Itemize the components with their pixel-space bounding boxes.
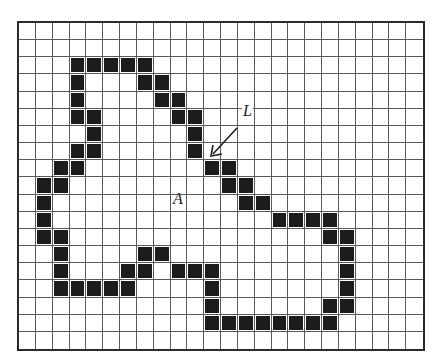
grid-cell — [406, 74, 423, 91]
grid-cell — [171, 246, 188, 263]
boundary-label: L — [242, 103, 253, 119]
grid-cell — [288, 57, 305, 74]
boundary-pixel — [137, 263, 154, 280]
grid-cell — [86, 40, 103, 57]
grid-cell — [36, 57, 53, 74]
boundary-pixel — [53, 263, 70, 280]
grid-cell — [356, 57, 373, 74]
grid-cell — [120, 74, 137, 91]
grid-cell — [19, 126, 36, 143]
grid-cell — [36, 160, 53, 177]
grid-cell — [171, 298, 188, 315]
grid-cell — [86, 246, 103, 263]
grid-cell — [356, 23, 373, 40]
grid-cell — [322, 57, 339, 74]
grid-cell — [305, 57, 322, 74]
grid-cell — [154, 298, 171, 315]
grid-cell — [154, 23, 171, 40]
grid-cell — [137, 160, 154, 177]
boundary-pixel — [171, 263, 188, 280]
grid-cell — [171, 23, 188, 40]
grid-cell — [53, 74, 70, 91]
boundary-pixel — [53, 229, 70, 246]
grid-cell — [322, 195, 339, 212]
grid-cell — [154, 143, 171, 160]
grid-cell — [120, 109, 137, 126]
grid-cell — [373, 74, 390, 91]
grid-cell — [154, 280, 171, 297]
grid-cell — [86, 92, 103, 109]
boundary-pixel — [204, 160, 221, 177]
grid-cell — [373, 57, 390, 74]
grid-cell — [103, 23, 120, 40]
grid-cell — [356, 126, 373, 143]
grid-cell — [70, 332, 87, 349]
grid-cell — [53, 92, 70, 109]
grid-cell — [204, 195, 221, 212]
grid-cell — [86, 263, 103, 280]
grid-cell — [19, 229, 36, 246]
grid-cell — [187, 92, 204, 109]
grid-cell — [356, 332, 373, 349]
grid-cell — [36, 23, 53, 40]
grid-cell — [373, 229, 390, 246]
grid-cell — [322, 246, 339, 263]
grid-cell — [322, 143, 339, 160]
grid-cell — [356, 143, 373, 160]
grid-cell — [305, 298, 322, 315]
grid-cell — [204, 212, 221, 229]
grid-cell — [238, 23, 255, 40]
grid-cell — [255, 212, 272, 229]
grid-cell — [86, 160, 103, 177]
boundary-pixel — [171, 92, 188, 109]
grid-cell — [406, 177, 423, 194]
grid-cell — [288, 177, 305, 194]
boundary-pixel — [288, 315, 305, 332]
boundary-pixel — [70, 92, 87, 109]
grid-cell — [204, 246, 221, 263]
grid-cell — [137, 92, 154, 109]
boundary-pixel — [36, 212, 53, 229]
boundary-pixel — [221, 160, 238, 177]
grid-cell — [187, 195, 204, 212]
grid-cell — [288, 263, 305, 280]
grid-cell — [373, 92, 390, 109]
grid-cell — [187, 298, 204, 315]
boundary-pixel — [187, 109, 204, 126]
grid-cell — [154, 126, 171, 143]
grid-cell — [238, 246, 255, 263]
grid-cell — [238, 298, 255, 315]
grid-cell — [389, 23, 406, 40]
boundary-pixel — [70, 143, 87, 160]
grid-cell — [389, 332, 406, 349]
grid-cell — [171, 229, 188, 246]
grid-cell — [339, 315, 356, 332]
grid-cell — [137, 143, 154, 160]
grid-cell — [389, 315, 406, 332]
grid-cell — [120, 229, 137, 246]
grid-cell — [305, 74, 322, 91]
grid-cell — [137, 280, 154, 297]
grid-cell — [19, 57, 36, 74]
grid-cell — [373, 126, 390, 143]
grid-cell — [204, 74, 221, 91]
grid-cell — [322, 23, 339, 40]
grid-cell — [322, 280, 339, 297]
grid-cell — [272, 280, 289, 297]
grid-cell — [19, 109, 36, 126]
boundary-pixel — [36, 177, 53, 194]
boundary-pixel — [103, 280, 120, 297]
grid-cell — [255, 332, 272, 349]
grid-cell — [322, 160, 339, 177]
grid-cell — [19, 315, 36, 332]
boundary-pixel — [53, 177, 70, 194]
grid-cell — [70, 246, 87, 263]
boundary-pixel — [36, 229, 53, 246]
grid-cell — [137, 332, 154, 349]
grid-cell — [373, 160, 390, 177]
grid-cell — [86, 229, 103, 246]
grid-cell — [53, 109, 70, 126]
grid-cell — [255, 143, 272, 160]
grid-cell — [406, 40, 423, 57]
boundary-pixel — [103, 57, 120, 74]
